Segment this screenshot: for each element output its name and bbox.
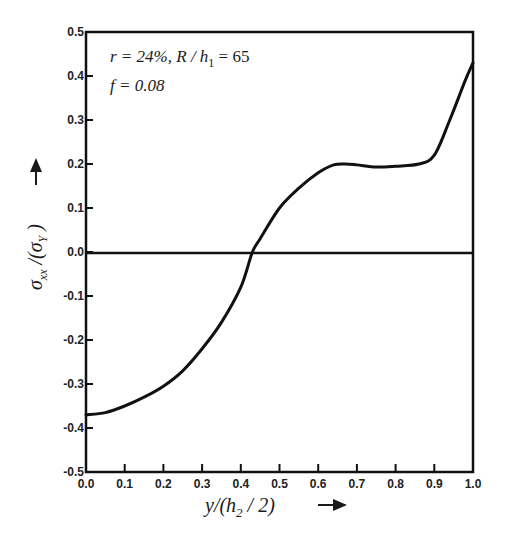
y-tick-label: 0.1 — [67, 201, 84, 215]
y-tick-label: -0.1 — [63, 289, 84, 303]
stress-curve — [86, 63, 473, 415]
y-tick-label: 0.3 — [67, 113, 84, 127]
x-axis-title: y/(h2 / 2) — [203, 494, 275, 520]
annotation-r-ratio: r = 24%, R / h1 = 65 — [110, 47, 249, 70]
x-tick-label: 0.1 — [116, 477, 133, 491]
svg-text:σxx /(σY ): σxx /(σY ) — [24, 224, 50, 290]
y-tick-label: -0.3 — [63, 377, 84, 391]
x-axis-ticks: 0.00.10.20.30.40.50.60.70.80.91.0 — [78, 464, 482, 491]
stress-distribution-chart: 0.50.40.30.20.10.0-0.1-0.2-0.3-0.4-0.5 0… — [0, 0, 509, 547]
y-tick-label: 0.2 — [67, 157, 84, 171]
y-axis-ticks: 0.50.40.30.20.10.0-0.1-0.2-0.3-0.4-0.5 — [63, 25, 93, 479]
x-tick-label: 0.4 — [232, 477, 249, 491]
x-tick-label: 0.5 — [271, 477, 288, 491]
x-tick-label: 0.8 — [387, 477, 404, 491]
y-tick-label: -0.4 — [63, 421, 84, 435]
y-tick-label: 0.5 — [67, 25, 84, 39]
y-tick-label: 0.4 — [67, 69, 84, 83]
y-tick-label: -0.2 — [63, 333, 84, 347]
x-tick-label: 0.2 — [155, 477, 172, 491]
x-tick-label: 0.6 — [310, 477, 327, 491]
annotation-f: f = 0.08 — [110, 76, 165, 95]
y-axis-title: σxx /(σY ) — [24, 160, 50, 290]
y-tick-label: 0.0 — [67, 245, 84, 259]
x-tick-label: 0.3 — [194, 477, 211, 491]
x-tick-label: 0.9 — [426, 477, 443, 491]
x-tick-label: 0.7 — [349, 477, 366, 491]
x-tick-label: 0.0 — [78, 477, 95, 491]
x-tick-label: 1.0 — [465, 477, 482, 491]
